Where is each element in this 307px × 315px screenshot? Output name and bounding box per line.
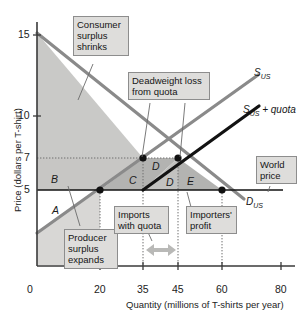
x-tick-60: 60	[216, 284, 228, 296]
y-tick-5: 5	[24, 184, 30, 196]
x-tick-80: 80	[275, 284, 287, 296]
leader-world-price	[268, 186, 270, 192]
y-tick-15: 15	[18, 29, 30, 41]
supply-quota-label: SUS + quota	[243, 104, 296, 117]
callout-deadweight-loss: Deadweight loss from quota	[128, 72, 210, 100]
callout-importers-profit: Importers' profit	[186, 206, 237, 234]
region-label-b: B	[51, 173, 58, 185]
supply-quota-label-sub: US	[250, 110, 260, 117]
x-tick-45: 45	[172, 284, 184, 296]
region-label-e: E	[187, 175, 194, 187]
demand-us-label-sub: US	[253, 202, 263, 209]
y-axis-title: Price (dollars per T-shirt)	[12, 108, 23, 212]
y-tick-0: 0	[27, 284, 33, 296]
callout-imports-with-quota: Imports with quota	[114, 206, 169, 234]
x-tick-35: 35	[137, 284, 149, 296]
region-label-d-lower: D	[166, 176, 174, 188]
supply-quota-label-main: S	[243, 104, 250, 115]
region-label-a: A	[52, 204, 59, 216]
chart-figure: Price (dollars per T-shirt) 15 10 7 5 0 …	[0, 0, 307, 315]
callout-world-price: World price	[256, 156, 297, 184]
y-tick-10: 10	[18, 110, 30, 122]
region-label-c: C	[129, 174, 137, 186]
x-axis-title: Quantity (millions of T-shirts per year)	[126, 300, 284, 311]
x-tick-20: 20	[94, 284, 106, 296]
marker-20-5	[96, 186, 103, 193]
supply-quota-label-tail: + quota	[259, 104, 295, 115]
callout-producer-surplus: Producer surplus expands	[64, 229, 118, 269]
leader-deadweight-left	[142, 103, 150, 157]
quota-span-arrow	[146, 244, 176, 256]
demand-us-label: DUS	[246, 196, 263, 209]
supply-us-label-main: S	[254, 67, 261, 78]
region-label-d-upper: D	[152, 160, 160, 172]
supply-us-label-sub: US	[261, 73, 271, 80]
marker-35-7	[139, 154, 146, 161]
supply-us-label: SUS	[254, 67, 270, 80]
marker-60-5	[218, 186, 225, 193]
y-tick-7: 7	[24, 152, 30, 164]
callout-consumer-surplus: Consumer surplus shrinks	[73, 16, 129, 56]
